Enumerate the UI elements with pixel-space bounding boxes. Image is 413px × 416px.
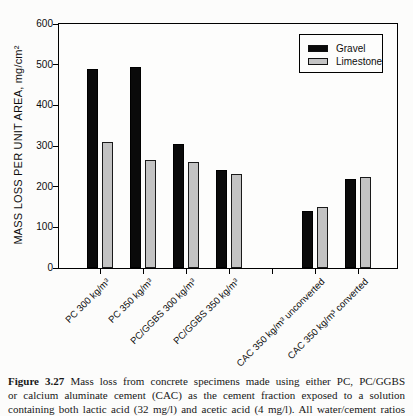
x-tick-label: PC 300 kg/m³ <box>63 276 112 325</box>
bar-gravel-6 <box>345 179 356 268</box>
y-tick-label: 300 <box>9 140 53 152</box>
legend: GravelLimestone <box>299 34 383 73</box>
bar-limestone-3 <box>188 162 199 268</box>
figure-chart: MASS LOSS PER UNIT AREA, mg/cm² GravelLi… <box>0 0 413 374</box>
caption-label: Figure 3.27 <box>8 375 64 387</box>
figure-caption: Figure 3.27 Mass loss from concrete spec… <box>8 374 405 416</box>
legend-swatch-gravel <box>308 45 328 52</box>
caption-line-3: containing both lactic acid (32 mg/l) an… <box>8 402 405 416</box>
y-tick-label: 400 <box>9 99 53 111</box>
x-tick-mark <box>186 269 187 274</box>
x-tick-mark <box>100 269 101 274</box>
y-tick-label: 0 <box>9 262 53 274</box>
x-tick-mark <box>229 269 230 274</box>
bar-gravel-3 <box>173 144 184 268</box>
bar-gravel-5 <box>302 211 313 268</box>
x-tick-mark <box>315 269 316 274</box>
caption-line-1: Figure 3.27 Mass loss from concrete spec… <box>8 374 405 388</box>
x-tick-mark <box>272 269 273 274</box>
x-tick-label: CAC 350 kg/m³ converted <box>285 276 370 361</box>
legend-entry-limestone: Limestone <box>308 55 382 68</box>
y-tick-mark <box>53 146 58 147</box>
caption-line-2: or calcium aluminate cement (CAC) as the… <box>8 388 405 402</box>
plot-area: GravelLimestone 0100200300400500600PC 30… <box>58 23 398 269</box>
bar-limestone-1 <box>102 142 113 268</box>
legend-entry-gravel: Gravel <box>308 42 382 55</box>
legend-swatch-limestone <box>308 58 328 65</box>
y-tick-mark <box>53 64 58 65</box>
bar-limestone-4 <box>231 174 242 268</box>
x-tick-label: CAC 350 kg/m³ unconverted <box>234 276 327 369</box>
bar-limestone-5 <box>317 207 328 268</box>
y-tick-label: 500 <box>9 59 53 71</box>
legend-label: Limestone <box>336 56 382 67</box>
bar-gravel-4 <box>216 170 227 268</box>
y-tick-label: 600 <box>9 18 53 30</box>
y-tick-mark <box>53 186 58 187</box>
bar-gravel-2 <box>130 67 141 268</box>
x-tick-mark <box>143 269 144 274</box>
bar-gravel-1 <box>87 69 98 268</box>
y-tick-label: 200 <box>9 181 53 193</box>
legend-label: Gravel <box>336 43 365 54</box>
y-tick-mark <box>53 24 58 25</box>
y-tick-mark <box>53 227 58 228</box>
caption-text-1: Mass loss from concrete specimens made u… <box>70 375 405 387</box>
x-tick-mark <box>358 269 359 274</box>
y-tick-mark <box>53 268 58 269</box>
y-tick-mark <box>53 105 58 106</box>
y-tick-label: 100 <box>9 221 53 233</box>
bar-limestone-6 <box>360 177 371 269</box>
bar-limestone-2 <box>145 160 156 268</box>
